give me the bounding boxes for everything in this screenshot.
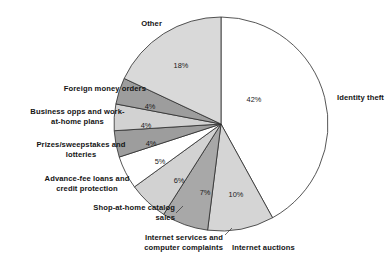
category-label-shop-at-home-catalog-sales: Shop-at-home catalog sales — [55, 203, 175, 222]
category-label-foreign-money-orders: Foreign money orders — [34, 84, 146, 94]
category-label-other: Other — [112, 19, 162, 29]
category-label-internet-services-computer-complaints: Internet services and computer complaint… — [103, 233, 223, 252]
slice-percent-prizes-sweepstakes-lotteries: 4% — [146, 139, 157, 148]
slice-percent-identity-theft: 42% — [247, 95, 262, 104]
category-label-identity-theft: Identity theft — [337, 93, 389, 103]
category-label-advance-fee-loans-credit-protection: Advance-fee loans and credit protection — [26, 174, 148, 193]
slice-percent-internet-auctions: 10% — [229, 190, 244, 199]
pie-chart-figure: 42%10%7%6%5%4%4%4%18% Identity theftInte… — [0, 0, 389, 260]
slice-percent-internet-services-computer-complaints: 7% — [200, 188, 211, 197]
slice-percent-foreign-money-orders: 4% — [145, 102, 156, 111]
category-label-internet-auctions: Internet auctions — [232, 243, 322, 253]
category-label-prizes-sweepstakes-lotteries: Prizes/sweepstakes and lotteries — [17, 140, 145, 159]
category-label-business-opps-work-at-home-plans: Business opps and work- at-home plans — [10, 107, 145, 126]
slice-percent-shop-at-home-catalog-sales: 6% — [174, 176, 185, 185]
slice-percent-other: 18% — [174, 61, 189, 70]
slice-percent-advance-fee-loans-credit-protection: 5% — [155, 157, 166, 166]
